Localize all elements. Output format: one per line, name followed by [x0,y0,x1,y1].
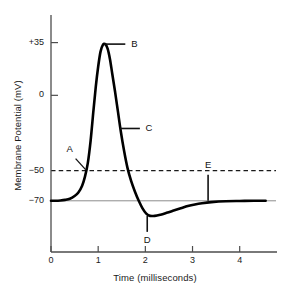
y-tick-label-zero: 0 [14,89,44,99]
annotation-label-c: C [142,122,156,133]
annotation-label-a: A [63,143,77,154]
y-tick-label-plus35: +35 [14,37,44,47]
x-tick-label-2: 2 [135,255,155,265]
action-potential-figure: Membrane Potential (mV) Time (millisecon… [0,0,283,294]
y-axis-title: Membrane Potential (mV) [12,56,23,216]
x-tick-label-3: 3 [183,255,203,265]
y-tick-label-minus50: −50 [14,165,44,175]
annotation-label-e: E [201,159,215,170]
annotation-label-b: B [127,38,141,49]
x-tick-label-1: 1 [88,255,108,265]
annotation-label-d: D [140,234,154,245]
x-tick-label-4: 4 [230,255,250,265]
x-axis-title: Time (milliseconds) [55,272,255,283]
x-tick-label-0: 0 [41,255,61,265]
y-tick-label-minus70: −70 [14,195,44,205]
